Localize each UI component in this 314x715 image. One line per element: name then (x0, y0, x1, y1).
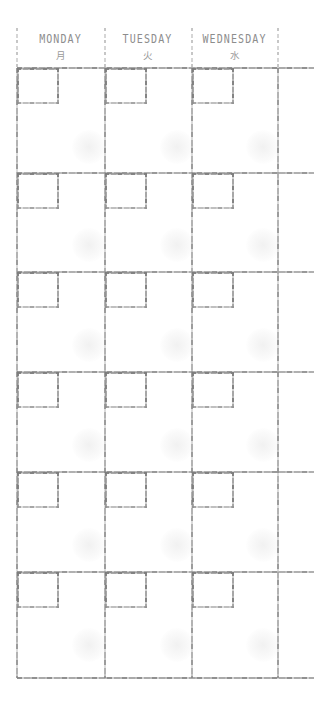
day-name-label: WEDNESDAY (202, 31, 266, 46)
date-number-box[interactable] (105, 173, 147, 209)
grid-column-line-header (277, 28, 279, 68)
date-number-box[interactable] (17, 372, 59, 408)
date-number-box[interactable] (192, 372, 234, 408)
grid-column-line-header (16, 28, 18, 68)
day-header-tuesday: TUESDAY 火 (104, 28, 191, 68)
date-number-box[interactable] (192, 572, 234, 608)
date-number (105, 272, 147, 308)
date-number-box[interactable] (105, 68, 147, 104)
day-header-row: MONDAY 月 TUESDAY 火 WEDNESDAY 水 (17, 28, 278, 68)
date-number-box[interactable] (105, 272, 147, 308)
date-number (192, 372, 234, 408)
date-number (17, 572, 59, 608)
day-kanji-label: 水 (230, 49, 240, 63)
date-number-box[interactable] (192, 68, 234, 104)
date-number (17, 372, 59, 408)
date-number-box[interactable] (192, 472, 234, 508)
date-number-box[interactable] (17, 272, 59, 308)
date-number (17, 173, 59, 209)
day-header-wednesday: WEDNESDAY 水 (191, 28, 278, 68)
day-kanji-label: 火 (143, 49, 153, 63)
date-number (105, 68, 147, 104)
day-name-label: TUESDAY (123, 31, 173, 46)
date-number (192, 68, 234, 104)
weekly-planner-page: MONDAY 月 TUESDAY 火 WEDNESDAY 水 (0, 0, 314, 715)
date-number (105, 572, 147, 608)
date-number (192, 572, 234, 608)
date-number (192, 272, 234, 308)
date-number-box[interactable] (105, 572, 147, 608)
date-number-box[interactable] (192, 173, 234, 209)
date-number (17, 68, 59, 104)
date-number (192, 472, 234, 508)
day-header-monday: MONDAY 月 (17, 28, 104, 68)
grid-column-line-header (104, 28, 106, 68)
date-number (105, 472, 147, 508)
day-name-label: MONDAY (39, 31, 82, 46)
date-number-box[interactable] (192, 272, 234, 308)
date-number-box[interactable] (17, 572, 59, 608)
date-number-box[interactable] (17, 472, 59, 508)
date-number (17, 472, 59, 508)
date-number (192, 173, 234, 209)
date-number-box[interactable] (105, 372, 147, 408)
date-number-box[interactable] (17, 173, 59, 209)
date-number (105, 372, 147, 408)
day-kanji-label: 月 (56, 49, 66, 63)
grid-column-line-header (191, 28, 193, 68)
date-number (17, 272, 59, 308)
date-number-box[interactable] (105, 472, 147, 508)
date-number-box[interactable] (17, 68, 59, 104)
date-number (105, 173, 147, 209)
